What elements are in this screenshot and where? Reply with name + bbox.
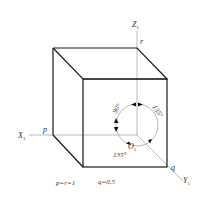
y-axis <box>137 135 183 181</box>
angle-label-xy: 135° <box>113 151 127 159</box>
r-label: r <box>140 37 144 46</box>
coefficient-q: q=0.5 <box>98 178 115 186</box>
angle-label-xz: 90° <box>111 102 123 115</box>
q-label: q <box>171 163 175 172</box>
coefficient-pr: p=r=1 <box>55 179 75 187</box>
y-axis-label: Y1 <box>183 176 190 186</box>
axonometric-diagram: Z1 r X1 p O1 q Y1 90° 135° 135° p=r=1 q=… <box>0 0 212 201</box>
cube <box>53 48 167 167</box>
p-label: p <box>42 125 47 134</box>
z-axis-label: Z1 <box>132 20 139 30</box>
origin-label: O1 <box>128 142 137 152</box>
x-axis-label: X1 <box>17 131 26 141</box>
